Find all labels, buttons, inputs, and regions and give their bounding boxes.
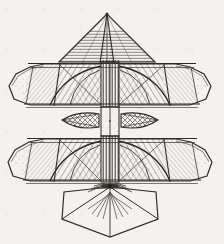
engraving-figure <box>0 0 224 244</box>
mid-fin-left-hatching <box>58 106 104 134</box>
top-cone-apex-node <box>106 13 109 16</box>
central-mast <box>101 60 119 186</box>
flying-machine-drawing <box>0 0 224 244</box>
tail-fan-cone <box>62 183 158 237</box>
central-mast-pivot <box>109 120 111 122</box>
hub-node <box>108 184 112 188</box>
top-sail-cone <box>50 13 164 65</box>
